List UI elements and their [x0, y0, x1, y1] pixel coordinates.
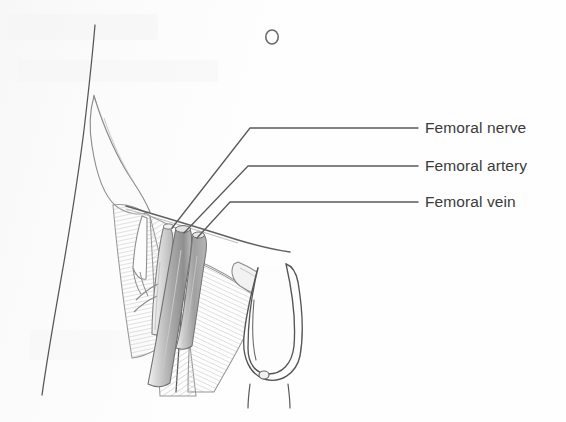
- callout-label-femoral-artery: Femoral artery: [425, 158, 527, 174]
- callout-label-femoral-nerve: Femoral nerve: [425, 120, 526, 136]
- femoral-anatomy-figure: Femoral nerve Femoral artery Femoral vei…: [0, 0, 566, 422]
- callout-label-femoral-vein: Femoral vein: [425, 194, 516, 210]
- anatomy-illustration: [0, 0, 566, 422]
